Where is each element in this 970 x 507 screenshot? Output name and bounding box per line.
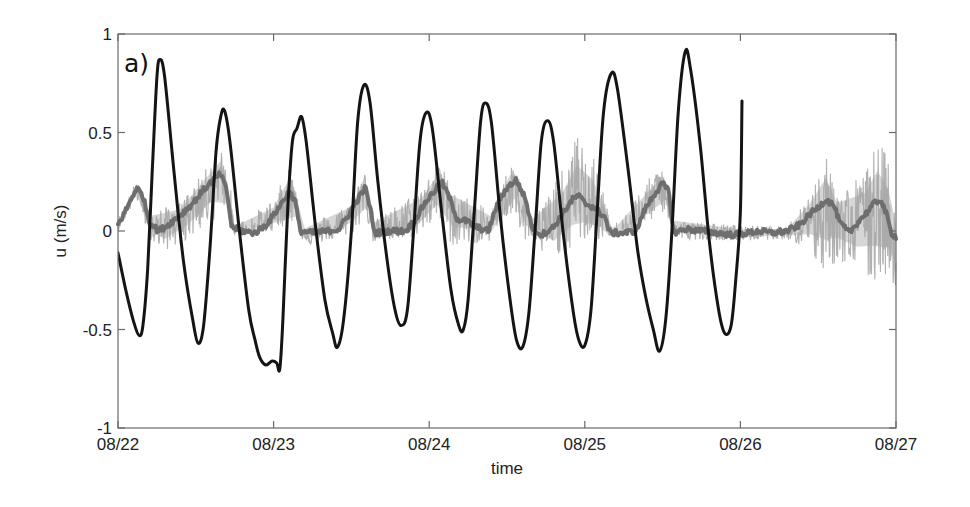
y-tick-label: 1 [103,25,112,44]
y-axis-label: u (m/s) [51,205,70,258]
x-tick-label: 08/27 [875,435,918,454]
y-tick-label: 0 [103,222,112,241]
y-tick-label: -0.5 [83,321,112,340]
x-tick-label: 08/23 [252,435,295,454]
x-tick-label: 08/25 [564,435,607,454]
x-axis-label: time [491,459,523,478]
x-axis-ticks: 08/2208/2308/2408/2508/2608/27 [97,34,918,454]
y-tick-label: 0.5 [88,124,112,143]
chart: 08/2208/2308/2408/2508/2608/27 10.50-0.5… [0,0,970,507]
y-tick-label: -1 [97,419,112,438]
x-tick-label: 08/26 [719,435,762,454]
panel-label: a) [124,49,149,78]
x-tick-label: 08/24 [408,435,451,454]
